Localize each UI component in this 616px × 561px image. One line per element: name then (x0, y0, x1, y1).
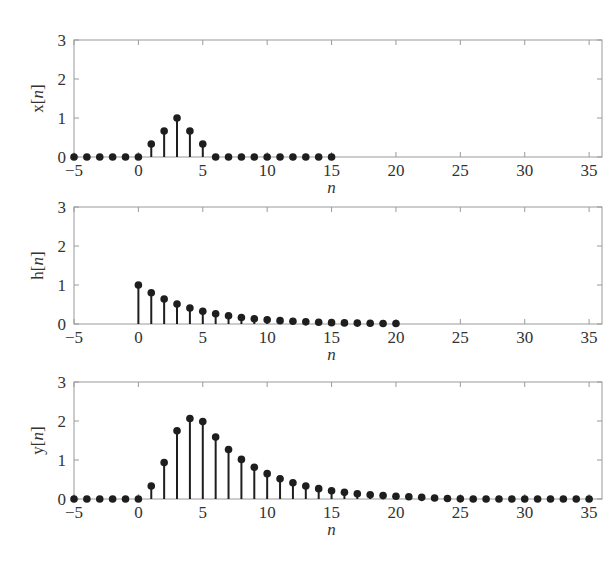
stem-marker (366, 319, 374, 327)
y-tick-label: 1 (58, 109, 67, 128)
stem-marker (302, 318, 310, 326)
y-tick-label: 3 (58, 198, 67, 217)
stem-marker (328, 153, 336, 161)
x-tick-label: 10 (259, 161, 276, 180)
stem-marker (173, 300, 181, 308)
stem-marker (135, 495, 143, 503)
stem-marker (341, 319, 349, 327)
x-tick-label: 10 (259, 328, 276, 347)
x-tick-label: 30 (516, 328, 533, 347)
stem-marker (289, 153, 297, 161)
x-axis-label: n (327, 345, 336, 364)
stem-marker (418, 494, 426, 502)
stem-marker (315, 318, 323, 326)
stem-marker (225, 312, 233, 320)
x-tick-label: 35 (581, 328, 598, 347)
stem-marker (547, 495, 555, 503)
x-tick-label: 20 (387, 328, 404, 347)
stem-marker (572, 495, 580, 503)
y-axis-label: y[n] (28, 426, 47, 454)
stem-marker (328, 319, 336, 327)
axes-frame (74, 207, 602, 324)
y-tick-label: 0 (58, 148, 67, 167)
y-tick-label: 0 (58, 315, 67, 334)
stem-marker (135, 281, 143, 289)
subplot-y-output: −5051015202530350123ny[n] (28, 373, 602, 539)
stem-marker (225, 446, 233, 454)
stem-marker (276, 475, 284, 483)
stem-marker (289, 318, 297, 326)
stem-marker (276, 153, 284, 161)
stem-marker (96, 153, 104, 161)
x-tick-label: 5 (199, 328, 208, 347)
x-tick-label: −5 (65, 503, 83, 522)
stem-marker (405, 493, 413, 501)
stem-marker (109, 495, 117, 503)
stem-marker (199, 307, 207, 315)
axes-frame (74, 382, 602, 499)
x-tick-label: 25 (452, 328, 469, 347)
subplot-x-signal: −5051015202530350123nx[n] (28, 31, 602, 197)
stem-marker (173, 427, 181, 435)
stem-marker (354, 319, 362, 327)
stem-marker (70, 153, 78, 161)
stem-marker (302, 482, 310, 490)
stem-marker (263, 153, 271, 161)
x-axis-label: n (327, 520, 336, 539)
stem-marker (147, 482, 155, 490)
stem-marker (482, 495, 490, 503)
stem-marker (250, 153, 258, 161)
stem-marker (122, 495, 130, 503)
stem-marker (83, 495, 91, 503)
stem-marker (135, 153, 143, 161)
stem-marker (173, 114, 181, 122)
stem-marker (495, 495, 503, 503)
stem-marker (109, 153, 117, 161)
stem-marker (457, 495, 465, 503)
x-tick-label: −5 (65, 161, 83, 180)
stem-marker (366, 491, 374, 499)
y-tick-label: 1 (58, 276, 67, 295)
stem-marker (392, 492, 400, 500)
x-tick-label: 25 (452, 503, 469, 522)
x-tick-label: 35 (581, 161, 598, 180)
x-axis-label: n (327, 178, 336, 197)
x-tick-label: 10 (259, 503, 276, 522)
stem-marker (444, 495, 452, 503)
x-tick-label: −5 (65, 328, 83, 347)
y-tick-label: 2 (58, 237, 67, 256)
stem-marker (96, 495, 104, 503)
y-tick-label: 1 (58, 451, 67, 470)
stem-marker (238, 456, 246, 464)
stem-marker (212, 433, 220, 441)
stem-marker (225, 153, 233, 161)
stem-marker (341, 489, 349, 497)
x-tick-label: 5 (199, 503, 208, 522)
stem-marker (186, 415, 194, 423)
stem-marker (147, 289, 155, 297)
stem-marker (521, 495, 529, 503)
stem-marker (212, 310, 220, 318)
stem-marker (70, 495, 78, 503)
x-tick-label: 35 (581, 503, 598, 522)
stem-marker (354, 490, 362, 498)
stem-marker (263, 316, 271, 324)
x-tick-label: 30 (516, 503, 533, 522)
stem-marker (160, 295, 168, 303)
x-tick-label: 0 (134, 161, 143, 180)
stem-marker (289, 479, 297, 487)
stem-marker (186, 127, 194, 135)
x-tick-label: 25 (452, 161, 469, 180)
stem-marker (250, 315, 258, 323)
stem-marker (83, 153, 91, 161)
stem-marker (534, 495, 542, 503)
stem-marker (379, 320, 387, 328)
stem-marker (199, 140, 207, 148)
stem-marker (160, 459, 168, 467)
stem-marker (392, 320, 400, 328)
stem-marker (238, 314, 246, 322)
stem-marker (263, 470, 271, 478)
stem-marker (469, 495, 477, 503)
axes-frame (74, 40, 602, 157)
x-tick-label: 20 (387, 161, 404, 180)
